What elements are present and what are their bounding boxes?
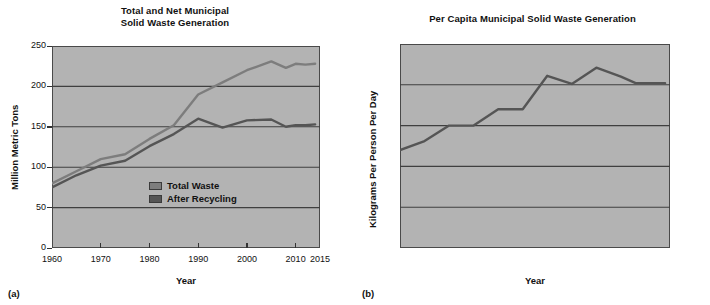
x-tick-mark — [246, 243, 247, 248]
x-tick-label: 1970 — [81, 254, 121, 264]
legend-item-total-waste: Total Waste — [149, 180, 237, 191]
x-tick-label: 1990 — [178, 254, 218, 264]
x-tick-mark — [149, 243, 150, 248]
legend-label-after-recycling: After Recycling — [167, 193, 237, 204]
x-tick-label: 1980 — [129, 254, 169, 264]
chart-canvas-b — [400, 44, 670, 248]
series-line-2 — [52, 119, 315, 188]
y-tick-mark — [47, 248, 52, 249]
chart-canvas-a — [52, 46, 320, 248]
legend-item-after-recycling: After Recycling — [149, 193, 237, 204]
y-axis-label-b: Kilograms Per Person Per Day — [367, 91, 378, 228]
legend-swatch-after-recycling — [149, 195, 162, 203]
y-tick-mark — [47, 86, 52, 87]
x-axis-label-b: Year — [400, 275, 670, 286]
series-line-1 — [400, 68, 665, 150]
x-tick-mark — [100, 243, 101, 248]
y-tick-mark — [47, 207, 52, 208]
chart-title-a-line1: Total and Net Municipal — [30, 5, 320, 17]
x-tick-mark — [295, 243, 296, 248]
y-tick-mark — [47, 167, 52, 168]
x-axis-label-a: Year — [52, 275, 320, 286]
chart-title-a-line2: Solid Waste Generation — [30, 17, 320, 29]
y-tick-label: 0 — [18, 242, 46, 252]
y-tick-mark — [47, 126, 52, 127]
figure-container: Total and Net Municipal Solid Waste Gene… — [0, 0, 710, 305]
y-tick-label: 200 — [18, 80, 46, 90]
y-tick-label: 50 — [18, 202, 46, 212]
y-tick-label: 100 — [18, 161, 46, 171]
chart-title-a: Total and Net Municipal Solid Waste Gene… — [30, 5, 320, 28]
legend-swatch-total-waste — [149, 182, 162, 190]
y-tick-mark — [47, 46, 52, 47]
chart-panel-b: Per Capita Municipal Solid Waste Generat… — [355, 0, 710, 305]
y-tick-label: 250 — [18, 40, 46, 50]
x-tick-label: 2015 — [300, 254, 340, 264]
y-tick-label: 150 — [18, 121, 46, 131]
chart-panel-a: Total and Net Municipal Solid Waste Gene… — [0, 0, 355, 305]
legend-a: Total Waste After Recycling — [146, 179, 241, 205]
x-tick-label: 2000 — [227, 254, 267, 264]
y-axis-label-a: Million Metric Tons — [9, 105, 20, 190]
x-tick-mark — [198, 243, 199, 248]
plot-area-b — [400, 44, 670, 248]
panel-letter-a: (a) — [8, 288, 20, 299]
plot-area-a — [52, 46, 320, 248]
x-tick-label: 1960 — [32, 254, 72, 264]
chart-title-b: Per Capita Municipal Solid Waste Generat… — [360, 13, 705, 25]
panel-letter-b: (b) — [362, 288, 374, 299]
legend-label-total-waste: Total Waste — [167, 180, 219, 191]
